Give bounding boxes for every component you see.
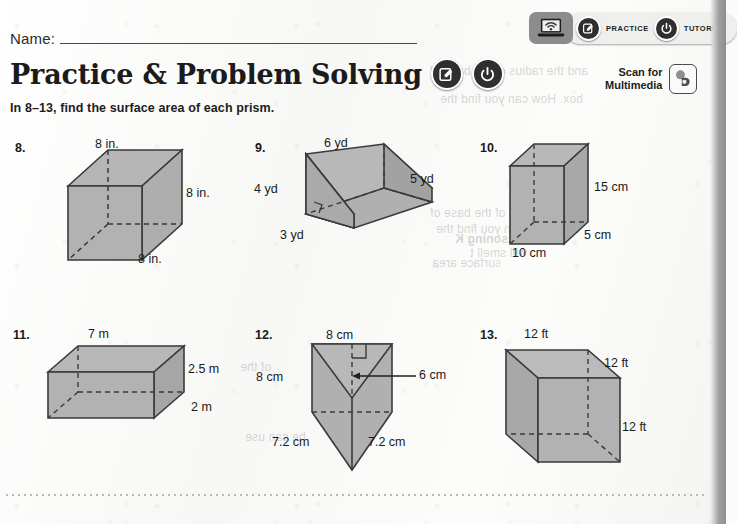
dimension-label: 12 ft <box>622 420 646 434</box>
practice-link[interactable]: PRACTICE <box>576 16 649 41</box>
pencil-square-icon <box>576 16 601 41</box>
power-icon <box>479 66 496 83</box>
prism-figure-11 <box>36 326 246 446</box>
dimension-label: 3 yd <box>280 228 304 242</box>
dimension-label: 6 yd <box>324 136 348 150</box>
dimension-label: 4 yd <box>254 182 278 196</box>
dimension-label: 8 cm <box>326 328 353 342</box>
name-label: Name: <box>10 30 55 47</box>
tutorial-badge-button[interactable] <box>472 58 504 90</box>
laptop-wifi-icon <box>529 12 573 44</box>
problem-9: 9. 6 yd 5 yd 4 yd 3 yd <box>252 136 472 276</box>
dimension-label: 8 in. <box>138 252 162 266</box>
problem-10: 10. 15 cm 5 cm 10 cm <box>480 136 710 281</box>
scan-code-icon <box>669 64 697 94</box>
pencil-square-icon <box>438 66 455 83</box>
problem-number: 10. <box>480 141 497 155</box>
problem-number: 12. <box>255 328 272 342</box>
dimension-label: 8 in. <box>186 186 210 200</box>
dimension-label: 5 yd <box>410 172 434 186</box>
perforation-line <box>6 494 706 496</box>
cube-figure-8 <box>36 138 236 278</box>
scan-for-multimedia[interactable]: Scan for Multimedia <box>605 64 697 94</box>
dimension-label: 8 in. <box>95 137 119 151</box>
problem-13: 13. 12 ft 12 ft 12 ft <box>480 322 715 477</box>
dimension-label: 10 cm <box>512 246 546 260</box>
practice-badge-button[interactable] <box>431 58 463 90</box>
dimension-label: 7.2 cm <box>368 435 406 449</box>
name-row: Name: <box>10 30 417 47</box>
cube-figure-13 <box>498 330 698 480</box>
problem-number: 8. <box>15 141 25 155</box>
problem-11: 11. 7 m 2.5 m 2 m <box>10 322 245 452</box>
dimension-label: 8 cm <box>256 370 283 384</box>
scan-line-2: Multimedia <box>605 79 662 92</box>
problem-12: 12. 8 cm 8 cm 6 cm 7.2 cm 7.2 cm <box>252 322 477 477</box>
instructions-text: In 8–13, find the surface area of each p… <box>10 101 274 115</box>
title-row: Practice & Problem Solving <box>10 58 504 90</box>
prism-figure-12 <box>294 336 479 486</box>
scan-line-1: Scan for <box>605 66 662 79</box>
page-title: Practice & Problem Solving <box>10 61 422 88</box>
bleed-text: box. How can you find the <box>440 92 583 106</box>
dimension-label: 12 ft <box>604 356 628 370</box>
page-edge-shadow <box>710 0 726 524</box>
problem-number: 13. <box>480 328 497 342</box>
dimension-label: 15 cm <box>594 180 628 194</box>
dimension-label: 2 m <box>191 400 212 414</box>
dimension-label: 12 ft <box>524 327 548 341</box>
name-input-line[interactable] <box>60 43 417 44</box>
dimension-label: 7 m <box>88 327 109 341</box>
problem-8: 8. 8 in. 8 in. 8 in. <box>10 136 240 276</box>
dimension-label: 2.5 m <box>188 362 219 376</box>
dimension-label: 6 cm <box>419 368 446 382</box>
digital-resources-bar: PRACTICE TUTORIAL <box>529 12 737 44</box>
problem-number: 11. <box>13 328 30 342</box>
scan-text: Scan for Multimedia <box>605 66 662 91</box>
dimension-label: 7.2 cm <box>272 435 310 449</box>
dimension-label: 5 cm <box>584 228 611 242</box>
problem-number: 9. <box>255 141 265 155</box>
wedge-figure-9 <box>274 136 474 266</box>
power-icon <box>654 16 679 41</box>
practice-label: PRACTICE <box>606 24 649 33</box>
